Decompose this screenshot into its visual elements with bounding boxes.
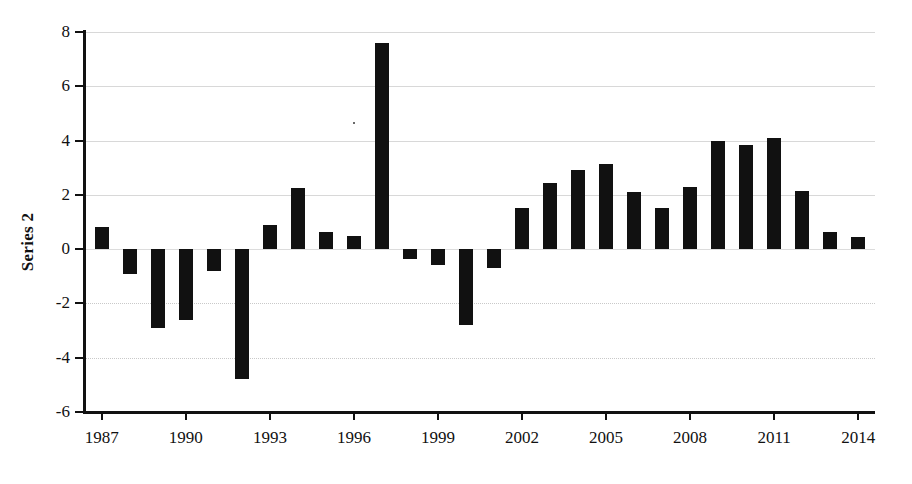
x-tick-label-2011: 2011	[744, 428, 804, 448]
bar	[347, 236, 361, 250]
bar	[179, 249, 193, 320]
y-tick-label--6: -6	[28, 402, 70, 422]
x-tick-label-2002: 2002	[492, 428, 552, 448]
bar	[375, 43, 389, 249]
y-tick--2	[75, 302, 84, 304]
x-tick-label-2008: 2008	[660, 428, 720, 448]
gridline-8	[85, 32, 875, 33]
plot-area	[85, 32, 875, 412]
x-tick-label-1990: 1990	[156, 428, 216, 448]
x-tick-2005	[605, 411, 607, 420]
bar	[291, 188, 305, 249]
x-tick-1996	[353, 411, 355, 420]
bar	[235, 249, 249, 379]
y-tick-label-6: 6	[28, 76, 70, 96]
bar	[795, 191, 809, 249]
y-tick--4	[75, 357, 84, 359]
y-tick-label--4: -4	[28, 348, 70, 368]
bar	[851, 237, 865, 249]
x-tick-2008	[689, 411, 691, 420]
bar	[571, 170, 585, 249]
bar	[487, 249, 501, 268]
x-tick-label-1996: 1996	[324, 428, 384, 448]
bar	[123, 249, 137, 273]
bar	[543, 183, 557, 250]
chart-page: Series 2 86420-2-4-619871990199319961999…	[0, 0, 912, 484]
bar	[403, 249, 417, 259]
bar	[263, 225, 277, 249]
bar	[515, 208, 529, 249]
x-tick-label-1993: 1993	[240, 428, 300, 448]
x-axis-line	[83, 411, 875, 414]
x-tick-label-1987: 1987	[72, 428, 132, 448]
x-tick-2014	[857, 411, 859, 420]
bar	[767, 138, 781, 249]
gridline--2	[85, 303, 875, 304]
y-tick-label--2: -2	[28, 293, 70, 313]
gridline-6	[85, 86, 875, 87]
bar	[151, 249, 165, 328]
y-tick-4	[75, 140, 84, 142]
y-tick--6	[75, 411, 84, 413]
x-tick-1987	[101, 411, 103, 420]
x-tick-label-2005: 2005	[576, 428, 636, 448]
x-tick-1993	[269, 411, 271, 420]
y-tick-6	[75, 85, 84, 87]
bar	[627, 192, 641, 249]
x-tick-label-1999: 1999	[408, 428, 468, 448]
bar	[599, 164, 613, 250]
bar	[431, 249, 445, 265]
bar	[207, 249, 221, 271]
gridline-4	[85, 141, 875, 142]
bar	[95, 227, 109, 249]
y-tick-label-2: 2	[28, 185, 70, 205]
x-tick-2011	[773, 411, 775, 420]
gridline--4	[85, 358, 875, 359]
y-tick-label-0: 0	[28, 239, 70, 259]
bar	[319, 232, 333, 250]
zero-line	[85, 249, 875, 250]
scan-speck	[353, 122, 355, 124]
y-tick-label-4: 4	[28, 131, 70, 151]
y-tick-2	[75, 194, 84, 196]
x-tick-1990	[185, 411, 187, 420]
y-tick-0	[75, 248, 84, 250]
y-tick-label-8: 8	[28, 22, 70, 42]
bar	[459, 249, 473, 325]
x-tick-1999	[437, 411, 439, 420]
y-tick-8	[75, 31, 84, 33]
bar	[823, 232, 837, 250]
bar	[683, 187, 697, 249]
bar	[739, 145, 753, 250]
x-tick-2002	[521, 411, 523, 420]
gridline-2	[85, 195, 875, 196]
bar	[711, 141, 725, 250]
x-tick-label-2014: 2014	[828, 428, 888, 448]
bar	[655, 208, 669, 249]
